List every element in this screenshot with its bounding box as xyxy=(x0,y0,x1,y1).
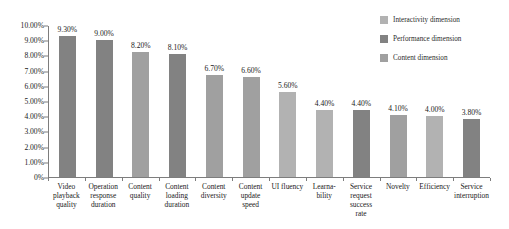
y-axis-tick-label: 1.00% xyxy=(24,159,44,167)
bar[interactable]: 4.00% xyxy=(426,116,443,177)
bar-slot: 9.00% xyxy=(86,25,123,177)
bar-slot: 6.70% xyxy=(196,25,233,177)
y-axis-tick-label: 10.00% xyxy=(21,22,44,30)
bar-value-label: 3.80% xyxy=(462,108,482,117)
y-axis-tick-label: 3.00% xyxy=(24,128,44,136)
y-axis: 10.00%9.00%8.00%7.00%6.00%5.00%4.00%3.00… xyxy=(0,26,48,178)
y-axis-tick-label: 2.00% xyxy=(24,144,44,152)
bar[interactable]: 4.40% xyxy=(316,110,333,177)
legend-swatch-icon xyxy=(380,16,388,24)
bar[interactable]: 4.10% xyxy=(390,115,407,177)
x-axis-tick-mark xyxy=(195,178,196,181)
bar[interactable]: 8.20% xyxy=(132,52,149,177)
bar-slot: 6.60% xyxy=(233,25,270,177)
x-axis-tick-mark xyxy=(306,178,307,181)
bar-slot: 9.30% xyxy=(49,25,86,177)
bar[interactable]: 9.00% xyxy=(96,40,113,177)
y-axis-tick-label: 4.00% xyxy=(24,113,44,121)
x-axis-tick-mark xyxy=(453,178,454,181)
bar[interactable]: 4.40% xyxy=(353,110,370,177)
x-axis-tick-mark xyxy=(159,178,160,181)
bar-value-label: 9.00% xyxy=(94,29,114,38)
y-axis-tick-label: 7.00% xyxy=(24,68,44,76)
bar-value-label: 6.60% xyxy=(241,66,261,75)
x-axis-category-label: UI fluency xyxy=(269,182,306,218)
bar-value-label: 4.40% xyxy=(315,99,335,108)
plot-area: 9.30%9.00%8.20%8.10%6.70%6.60%5.60%4.40%… xyxy=(48,26,490,178)
bar[interactable]: 5.60% xyxy=(279,92,296,177)
x-axis-category-label: Novelty xyxy=(379,182,416,218)
x-axis-tick-mark xyxy=(343,178,344,181)
bar-value-label: 8.20% xyxy=(131,41,151,50)
legend-item-label: Interactivity dimension xyxy=(393,16,460,24)
bar-value-label: 5.60% xyxy=(278,81,298,90)
bar-value-label: 4.40% xyxy=(352,99,372,108)
bar-value-label: 8.10% xyxy=(168,43,188,52)
x-axis-tick-mark xyxy=(269,178,270,181)
x-axis-category-label: Operation response duration xyxy=(85,182,122,218)
x-axis-tick-mark xyxy=(48,178,49,181)
x-axis-tick-mark xyxy=(380,178,381,181)
x-axis-tick-mark xyxy=(416,178,417,181)
bar[interactable]: 3.80% xyxy=(463,119,480,177)
y-axis-tick-label: 0% xyxy=(34,174,44,182)
bar[interactable]: 6.70% xyxy=(206,75,223,177)
bar-chart: Interactivity dimensionPerformance dimen… xyxy=(0,0,509,229)
bar-value-label: 6.70% xyxy=(205,64,225,73)
bar-slot: 8.10% xyxy=(159,25,196,177)
bar-slot: 4.40% xyxy=(343,25,380,177)
x-axis-category-label: Video playback quality xyxy=(48,182,85,218)
bar-slot: 3.80% xyxy=(453,25,490,177)
x-axis-labels: Video playback qualityOperation response… xyxy=(48,182,490,218)
x-axis-tick-mark xyxy=(85,178,86,181)
bar[interactable]: 9.30% xyxy=(59,36,76,177)
bar-slot: 4.40% xyxy=(306,25,343,177)
y-axis-tick-label: 9.00% xyxy=(24,37,44,45)
x-axis-category-label: Service request success rate xyxy=(343,182,380,218)
x-axis-category-label: Service interruption xyxy=(453,182,490,218)
bar-value-label: 9.30% xyxy=(58,25,78,34)
bar-slot: 8.20% xyxy=(123,25,160,177)
x-axis-category-label: Content update speed xyxy=(232,182,269,218)
bar-value-label: 4.00% xyxy=(425,105,445,114)
x-axis-category-label: Learna-bility xyxy=(306,182,343,218)
bar-group: 9.30%9.00%8.20%8.10%6.70%6.60%5.60%4.40%… xyxy=(49,25,490,177)
x-axis-category-label: Efficiency xyxy=(416,182,453,218)
bar[interactable]: 8.10% xyxy=(169,54,186,177)
y-axis-tick-label: 5.00% xyxy=(24,98,44,106)
x-axis-tick-mark xyxy=(122,178,123,181)
bar-value-label: 4.10% xyxy=(388,104,408,113)
bar[interactable]: 6.60% xyxy=(243,77,260,177)
bar-slot: 5.60% xyxy=(270,25,307,177)
bar-slot: 4.00% xyxy=(417,25,454,177)
bar-slot: 4.10% xyxy=(380,25,417,177)
x-axis-category-label: Content diversity xyxy=(195,182,232,218)
x-axis-tick-mark xyxy=(490,178,491,181)
x-axis-tick-mark xyxy=(232,178,233,181)
x-axis-category-label: Content loading duration xyxy=(158,182,195,218)
y-axis-tick-label: 8.00% xyxy=(24,52,44,60)
x-axis-category-label: Content quality xyxy=(122,182,159,218)
y-axis-tick-label: 6.00% xyxy=(24,83,44,91)
